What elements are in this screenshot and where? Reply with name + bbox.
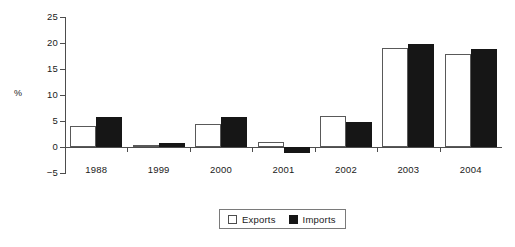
y-tick-label: −5 bbox=[18, 167, 58, 178]
black-square-icon bbox=[289, 215, 298, 224]
x-tick-mark bbox=[315, 147, 316, 152]
y-tick-mark bbox=[60, 121, 66, 122]
bar-imports-1988 bbox=[96, 117, 122, 147]
bar-exports-2001 bbox=[258, 142, 284, 147]
bar-imports-2002 bbox=[346, 122, 372, 147]
white-square-icon bbox=[228, 215, 237, 224]
y-tick-label: 15 bbox=[18, 63, 58, 74]
bar-exports-2003 bbox=[382, 48, 408, 147]
y-tick-label: 10 bbox=[18, 89, 58, 100]
x-tick-mark bbox=[377, 147, 378, 152]
y-tick-label: 20 bbox=[18, 37, 58, 48]
bar-imports-2001 bbox=[284, 147, 310, 153]
y-tick-mark bbox=[60, 17, 66, 18]
x-tick-label: 2004 bbox=[441, 164, 501, 175]
bar-exports-2004 bbox=[445, 54, 471, 147]
bar-exports-1988 bbox=[70, 126, 96, 147]
y-tick-mark bbox=[60, 43, 66, 44]
x-tick-mark bbox=[190, 147, 191, 152]
legend-label-imports: Imports bbox=[303, 214, 336, 225]
bar-imports-1999 bbox=[159, 143, 185, 147]
x-tick-label: 2002 bbox=[316, 164, 376, 175]
x-tick-label: 2000 bbox=[191, 164, 251, 175]
y-tick-mark bbox=[60, 95, 66, 96]
bar-chart-figure: % 2520151050−5 1988199920002001200220032… bbox=[0, 0, 515, 247]
x-tick-label: 2003 bbox=[378, 164, 438, 175]
y-tick-label: 5 bbox=[18, 115, 58, 126]
bar-imports-2004 bbox=[471, 49, 497, 147]
chart-legend: Exports Imports bbox=[219, 209, 346, 229]
y-tick-label: 25 bbox=[18, 11, 58, 22]
x-tick-mark bbox=[440, 147, 441, 152]
bar-exports-2002 bbox=[320, 116, 346, 147]
bar-imports-2003 bbox=[408, 44, 434, 147]
x-tick-label: 2001 bbox=[254, 164, 314, 175]
x-tick-label: 1999 bbox=[129, 164, 189, 175]
x-tick-mark bbox=[127, 147, 128, 152]
legend-label-exports: Exports bbox=[242, 214, 276, 225]
x-tick-label: 1988 bbox=[66, 164, 126, 175]
legend-entry-exports: Exports bbox=[228, 214, 276, 225]
y-tick-mark bbox=[60, 69, 66, 70]
legend-entry-imports: Imports bbox=[289, 214, 336, 225]
bar-exports-1999 bbox=[133, 145, 159, 147]
bar-exports-2000 bbox=[195, 124, 221, 147]
y-tick-label: 0 bbox=[18, 141, 58, 152]
x-tick-mark bbox=[252, 147, 253, 152]
bar-imports-2000 bbox=[221, 117, 247, 147]
y-tick-mark bbox=[60, 173, 66, 174]
